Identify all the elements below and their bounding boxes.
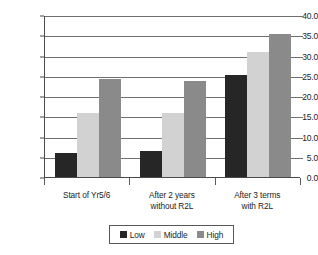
x-axis-category-line: without R2L <box>129 201 214 212</box>
bar-chart: 40.0 35.0 30.0 25.0 20.0 15.0 10.0 5.0 0… <box>0 0 318 255</box>
bar-group <box>130 16 215 177</box>
bar-middle <box>77 113 99 177</box>
bar-low <box>225 75 247 177</box>
legend-label: Middle <box>164 230 188 240</box>
x-tick-mark <box>129 178 130 185</box>
legend-label: High <box>207 230 224 240</box>
legend-swatch-icon <box>120 231 127 238</box>
x-axis-category-label: After 2 years without R2L <box>129 190 214 211</box>
x-tick-mark <box>215 178 216 185</box>
bar-group <box>216 16 301 177</box>
x-axis-category-label: Start of Yr5/6 <box>44 190 129 201</box>
bar-group <box>45 16 130 177</box>
legend-item-middle: Middle <box>154 230 188 240</box>
legend-item-low: Low <box>120 230 145 240</box>
bar-low <box>55 153 77 177</box>
x-axis-category-line: After 2 years <box>129 190 214 201</box>
bar-high <box>99 79 121 177</box>
plot-area <box>44 16 300 178</box>
x-axis-category-line: After 3 terms <box>215 190 300 201</box>
legend-swatch-icon <box>197 231 204 238</box>
x-tick-mark <box>44 178 45 185</box>
x-tick-mark <box>300 178 301 185</box>
legend-label: Low <box>130 230 145 240</box>
bar-high <box>184 81 206 177</box>
legend-swatch-icon <box>154 231 161 238</box>
chart-legend: Low Middle High <box>109 225 234 244</box>
legend-item-high: High <box>197 230 224 240</box>
x-axis-category-label: After 3 terms with R2L <box>215 190 300 211</box>
bar-middle <box>162 113 184 177</box>
bar-middle <box>247 52 269 177</box>
x-axis-category-line: Start of Yr5/6 <box>44 190 129 201</box>
bar-low <box>140 151 162 177</box>
x-axis-category-line: with R2L <box>215 201 300 212</box>
bar-high <box>269 34 291 177</box>
